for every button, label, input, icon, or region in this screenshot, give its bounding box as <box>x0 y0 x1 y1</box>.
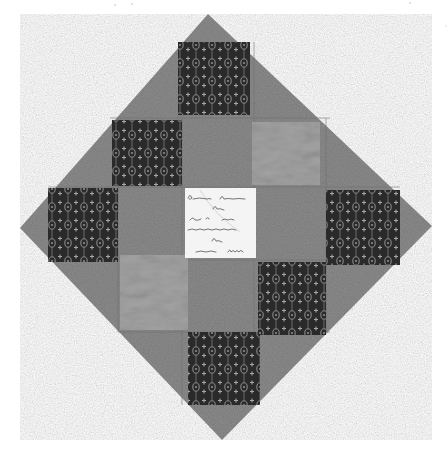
light-patch-upper-right <box>252 122 320 185</box>
dark-square-top <box>178 42 250 115</box>
dark-square-bottom <box>188 332 260 405</box>
dark-square-left <box>48 188 118 262</box>
scan-specks <box>114 2 447 27</box>
dark-square-lower-right <box>258 262 326 335</box>
light-patch-lower-left <box>120 255 188 330</box>
signature-label <box>185 188 256 258</box>
dark-square-upper-left <box>112 120 182 186</box>
quilt-photo <box>0 0 448 456</box>
dark-square-right <box>326 190 400 265</box>
